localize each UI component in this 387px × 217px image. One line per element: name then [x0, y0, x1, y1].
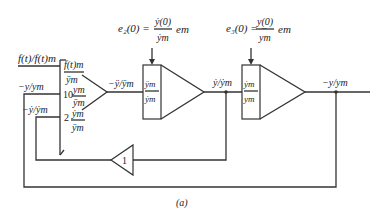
summer-gain3: 2	[64, 112, 69, 123]
inverter-gain: 1	[122, 155, 127, 166]
figure-label: (a)	[176, 197, 188, 209]
integrator1-amplifier	[161, 65, 204, 119]
e3-num: y(0)	[256, 16, 274, 28]
summer-in1-num: f(t)m	[64, 59, 83, 71]
integrator1-den: ẏm	[144, 94, 156, 104]
integrator2-amplifier	[260, 65, 305, 119]
analog-computer-diagram: f(t)/f(t)m f(t)m ÿm 10 ym ÿm 2 ẏm ÿm −y/…	[0, 0, 387, 217]
out2-label: ẏ/ẏm	[212, 77, 232, 88]
fb2-label: −ẏ/ẏm	[22, 104, 48, 115]
feedback-y-to-summer	[24, 92, 336, 187]
integrator2-den: ym	[243, 94, 255, 104]
summer-in2-num: ym	[72, 84, 85, 95]
out3-label: −y/ym	[322, 77, 348, 88]
arrow-head	[248, 59, 254, 65]
e2-lhs: e₂(0) =	[118, 22, 150, 35]
e3-rhs: em	[278, 23, 291, 35]
e2-num: ẏ(0)	[154, 16, 172, 28]
summer-amplifier	[82, 75, 107, 110]
summer-in3-den: ÿm	[71, 122, 84, 133]
integrator1-box	[143, 65, 161, 119]
fb1-label: −y/ym	[18, 81, 44, 92]
e2-den: ẏm	[156, 32, 169, 43]
summer-in2-den: ÿm	[72, 97, 85, 108]
integrator1-num: ÿm	[144, 79, 156, 89]
input-label: f(t)/f(t)m	[18, 52, 56, 65]
summer-gain2: 10	[63, 89, 73, 100]
e2-rhs: em	[176, 23, 189, 35]
integrator2-num: ẏm	[243, 79, 255, 89]
summer-in3-num: ẏm	[71, 108, 84, 119]
arrow-head	[149, 59, 155, 65]
out1-label: −ÿ/ÿm	[108, 78, 134, 89]
integrator2-box	[242, 65, 260, 119]
e3-den: ym	[258, 32, 271, 43]
